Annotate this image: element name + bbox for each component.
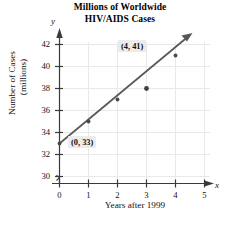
x-axis-arrowhead [205,181,215,187]
data-point-3-38 [144,86,149,91]
ytick-label-36: 36 [30,105,50,115]
ytick-label-32: 32 [30,149,50,159]
x-axis-title: Years after 1999 [55,200,215,210]
y-axis-title: Number of Cases (millions) [7,28,29,138]
xtick-label-1: 1 [82,190,96,200]
line-marker-0-33 [58,142,62,146]
ytick-label-34: 34 [30,127,50,137]
xtick-label-2: 2 [111,190,125,200]
line-marker-4-41 [174,54,178,58]
ytick-label-42: 42 [30,39,50,49]
y-axis-title-line-2: (millions) [18,28,29,138]
chart-figure: Millions of Worldwide HIV/AIDS Cases [0,0,233,225]
line-marker-1-35 [87,120,91,124]
ytick-label-40: 40 [30,61,50,71]
y-axis [56,28,62,184]
ytick-label-30: 30 [30,171,50,181]
grid-vertical [89,42,205,183]
ytick-label-38: 38 [30,83,50,93]
xtick-label-3: 3 [140,190,154,200]
xtick-label-0: 0 [53,190,67,200]
x-axis [52,181,214,187]
x-axis-letter: x [215,180,219,190]
annotation-label-end: (4, 41) [118,40,146,52]
y-axis-title-line-1: Number of Cases [7,28,18,138]
y-axis-arrowhead [56,28,62,38]
y-axis-letter: y [51,16,55,26]
line-marker-2-37 [116,98,120,102]
xtick-label-4: 4 [169,190,183,200]
xtick-label-5: 5 [198,190,212,200]
trend-line [60,38,188,144]
annotation-label-origin: (0, 33) [68,136,96,148]
grid-horizontal [60,45,211,177]
